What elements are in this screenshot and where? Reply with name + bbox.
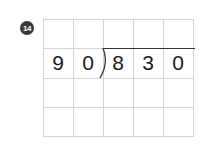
grid-line [43, 78, 194, 79]
division-bar [103, 48, 195, 49]
dividend-digit: 0 [163, 48, 193, 78]
division-bracket-icon [97, 48, 107, 78]
grid-line [43, 136, 194, 137]
problem-number-badge: 14 [20, 21, 34, 35]
division-grid: 9 0 8 3 0 [43, 19, 194, 137]
dividend-digit: 3 [133, 48, 163, 78]
dividend-digit: 8 [103, 48, 133, 78]
grid-line [43, 107, 194, 108]
grid-line [43, 19, 194, 20]
divisor-digit: 9 [43, 48, 73, 78]
